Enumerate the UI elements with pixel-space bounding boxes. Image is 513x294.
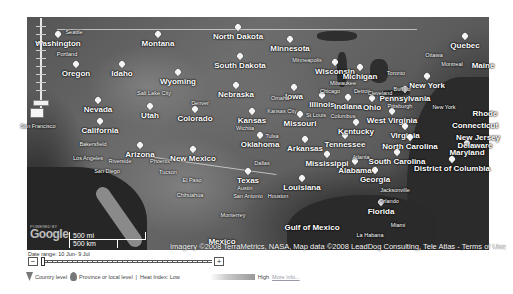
state-label: California [82, 127, 119, 135]
city-label: Chicago [320, 88, 340, 94]
city-label: Chihuahua [177, 192, 204, 198]
state-label: Missouri [284, 120, 317, 128]
zoom-tick [36, 74, 46, 75]
legend-heat-high: High [258, 274, 269, 280]
zoom-out-button[interactable] [30, 108, 44, 118]
city-label: Tulsa [265, 133, 278, 139]
state-label: Tennessee [325, 141, 366, 149]
city-label: Atlanta [352, 154, 369, 160]
city-label: Phoenix [150, 158, 170, 164]
city-label: San Antonio [233, 193, 263, 199]
lake-superior [317, 31, 357, 41]
state-label: Illinois [309, 101, 334, 109]
zoom-slider[interactable] [32, 18, 50, 113]
state-label: Quebec [450, 42, 479, 50]
city-label: New York [432, 104, 455, 110]
city-label: La Habana [357, 232, 384, 238]
state-label: Gulf of Mexico [284, 224, 339, 232]
city-label: Denver [191, 100, 209, 106]
city-label: Los Angeles [73, 155, 103, 161]
state-label: New Mexico [170, 155, 216, 163]
legend: Country level Province or local level | … [26, 272, 300, 281]
state-label: Delaware [457, 142, 492, 150]
city-label: Tucson [159, 169, 177, 175]
state-label: Indiana [334, 103, 362, 111]
city-label: Dallas [254, 160, 269, 166]
city-label: Columbus [331, 113, 356, 119]
terms-of-use-link[interactable]: Terms of Use [462, 242, 506, 251]
city-label: Cleveland [368, 90, 392, 96]
city-label: Toronto [387, 70, 405, 76]
timeline-slider[interactable]: − + [28, 257, 228, 267]
map-attribution: Imagery ©2008 TerraMetrics, NASA, Map da… [170, 242, 506, 251]
city-label: Portland [57, 51, 78, 57]
zoom-tick [36, 58, 46, 59]
city-label: Austin [237, 185, 252, 191]
city-label: Jacksonville [380, 187, 410, 193]
google-logo[interactable]: Google [30, 227, 68, 241]
city-label: Wichita [236, 125, 254, 131]
timeline-track[interactable] [42, 260, 212, 263]
scale-miles: 500 mi [73, 232, 94, 239]
city-label: Salt Lake City [137, 90, 171, 96]
state-label: Oklahoma [241, 141, 280, 149]
city-label: Orlando [379, 198, 399, 204]
state-label: Minnesota [270, 45, 310, 53]
city-label: El Paso [183, 177, 202, 183]
city-label: Monterrey [221, 212, 246, 218]
city-label: Kansas City [267, 108, 296, 114]
zoom-tick [36, 42, 46, 43]
attribution-text: Imagery ©2008 TerraMetrics, NASA, Map da… [170, 242, 462, 251]
state-label: Florida [368, 208, 395, 216]
state-label: North Carolina [382, 143, 438, 151]
city-label: Omaha [271, 95, 289, 101]
state-label: Ohio [363, 104, 381, 112]
timeline-handle[interactable] [41, 257, 45, 266]
state-label: Alabama [338, 167, 371, 175]
timeline-zoom-in-button[interactable]: + [214, 257, 224, 266]
state-label: Connecticut [452, 122, 498, 130]
scale-km: 500 km [73, 240, 96, 247]
state-label: Georgia [360, 176, 390, 184]
state-label: Nebraska [218, 91, 254, 99]
more-info-link[interactable]: More info... [272, 274, 300, 280]
state-label: Idaho [111, 70, 132, 78]
zoom-tick [36, 82, 46, 83]
country-marker-icon [26, 272, 33, 281]
state-label: Rhode [473, 110, 498, 118]
city-label: Ottawa [425, 52, 442, 58]
state-label: Maine [472, 62, 495, 70]
state-label: New York [409, 82, 445, 90]
city-label: Houston [268, 193, 289, 199]
state-label: North Dakota [213, 33, 263, 41]
state-label: Montana [142, 40, 175, 48]
state-label: New Jersey [456, 134, 500, 142]
heat-index-gradient [210, 274, 255, 280]
zoom-slider-thumb[interactable] [33, 100, 49, 106]
legend-country-level: Country level [35, 274, 67, 280]
scale-bar: 500 mi 500 km [69, 232, 149, 248]
state-label: District of Columbia [414, 165, 490, 173]
zoom-tick [36, 90, 46, 91]
state-label: Virginia [390, 132, 419, 140]
zoom-tick [36, 26, 46, 27]
city-label: Minneapolis [292, 57, 321, 63]
legend-province-level: Province or local level [79, 274, 133, 280]
scale-tick [117, 240, 118, 248]
zoom-tick [36, 50, 46, 51]
city-label: Pittsburgh [388, 103, 413, 109]
city-label: Milwaukee [330, 80, 356, 86]
state-label: Arkansas [287, 145, 323, 153]
scale-tick [69, 232, 70, 248]
province-marker-icon [70, 272, 77, 281]
state-label: Kansas [238, 117, 266, 125]
city-label: Bakersfield [79, 141, 106, 147]
city-label: Buffalo [393, 86, 410, 92]
city-label: Montreal [441, 61, 462, 67]
timeline-zoom-out-button[interactable]: − [28, 257, 38, 266]
legend-heat-low: Heat Index: Low [140, 274, 180, 280]
city-label: San Diego [94, 168, 120, 174]
state-label: Nevada [84, 106, 112, 114]
zoom-tick [36, 34, 46, 35]
legend-separator: | [136, 274, 137, 280]
